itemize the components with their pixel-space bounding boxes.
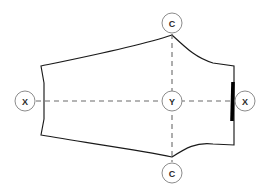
marker-right-x[interactable]: X [235, 91, 255, 111]
marker-top-c-label: C [169, 19, 176, 29]
marker-left-x[interactable]: X [15, 91, 35, 111]
marker-bottom-c[interactable]: C [162, 163, 182, 183]
marker-top-c[interactable]: C [162, 13, 182, 33]
marker-left-x-label: X [22, 97, 28, 107]
marker-right-x-label: X [242, 97, 248, 107]
marker-bottom-c-label: C [169, 169, 176, 179]
marker-center-y-label: Y [169, 97, 175, 107]
marker-center-y[interactable]: Y [162, 91, 182, 111]
section-outline-path [41, 35, 234, 157]
section-diagram: C X Y X C [0, 0, 269, 194]
thick-right-edge-segment [232, 82, 233, 121]
diagram-canvas: C X Y X C [0, 0, 269, 194]
